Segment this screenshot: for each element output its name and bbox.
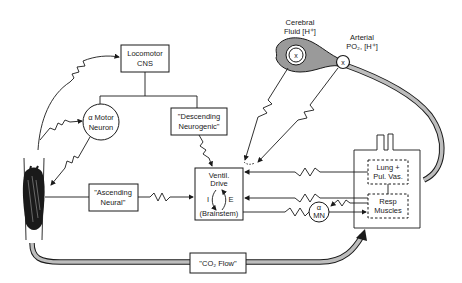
alpha-mn-label-2: MN [313, 211, 325, 220]
alpha-motor-label-1: α Motor [88, 113, 114, 122]
descending-label-1: "Descending [178, 112, 220, 121]
expiration-label: E [228, 195, 233, 204]
alpha-motor-label-2: Neuron [89, 123, 114, 132]
descending-label-2: Neurogenic" [178, 122, 219, 131]
co2-flow-box: "CO₂ Flow" [190, 253, 246, 273]
alpha-motor-neuron-node: α Motor Neuron [83, 104, 119, 140]
lung-label-1: Lung + [376, 163, 400, 172]
ascending-neural-box: "Ascending Neural" [89, 184, 138, 211]
descending-neurogenic-box: "Descending Neurogenic" [171, 108, 227, 135]
cerebral-fluid-label-2: Fluid [H⁺] [284, 27, 316, 36]
cerebral-fluid-receptor: x [276, 38, 342, 72]
lung-label-2: Pul. Vas. [373, 172, 402, 181]
arterial-label-2: PO₂, [H⁺] [346, 42, 378, 51]
ventil-label-2: Drive [210, 179, 228, 188]
alpha-mn-node: α MN [309, 202, 329, 222]
locomotor-label-1: Locomotor [127, 49, 163, 58]
resp-muscles-label-2: Muscles [374, 206, 402, 215]
respiratory-system-container: Lung + Pul. Vas. Resp Muscles [354, 134, 420, 228]
ascending-label-1: "Ascending [94, 188, 132, 197]
locomotor-label-2: CNS [137, 59, 153, 68]
cerebral-marker: x [294, 52, 298, 59]
ascending-label-2: Neural" [101, 198, 126, 207]
co2-flow-label: "CO₂ Flow" [199, 259, 237, 268]
resp-muscles-label-1: Resp [379, 197, 397, 206]
leg-muscle-illustration [23, 158, 45, 240]
respiratory-control-diagram: x x Cerebral Fluid [H⁺] Arterial PO₂, [H… [0, 0, 462, 283]
arterial-marker: x [341, 59, 345, 66]
cerebral-fluid-label-1: Cerebral [286, 18, 315, 27]
inspiration-label: I [207, 195, 209, 204]
arterial-label-1: Arterial [350, 33, 374, 42]
locomotor-cns-box: Locomotor CNS [121, 45, 169, 72]
ventil-label-3: (Brainstem) [200, 209, 239, 218]
arterial-receptor: x [337, 56, 350, 69]
ventil-drive-box: Ventil. Drive I E (Brainstem) [195, 168, 243, 220]
